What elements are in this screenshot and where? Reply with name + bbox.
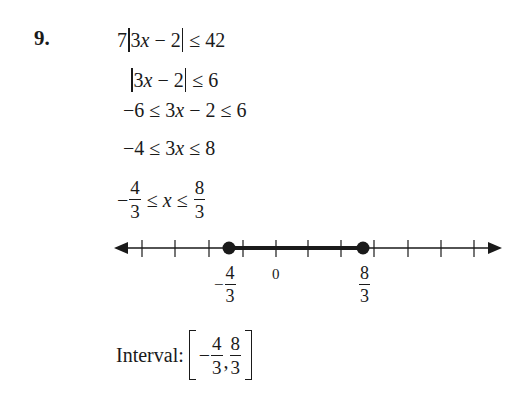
closed-endpoint-right bbox=[357, 242, 370, 255]
label-neg-four-thirds: −43 bbox=[214, 264, 237, 305]
left-bracket bbox=[189, 330, 196, 380]
numerator: 4 bbox=[211, 334, 223, 356]
left-arrow-icon bbox=[114, 242, 128, 254]
numerator: 8 bbox=[230, 334, 242, 356]
fraction: 83 bbox=[359, 264, 370, 305]
closed-endpoint-left bbox=[223, 242, 236, 255]
denominator: 3 bbox=[225, 285, 236, 305]
fraction-eight-thirds: 83 bbox=[230, 334, 242, 377]
label-zero: 0 bbox=[272, 266, 280, 283]
right-arrow-icon bbox=[488, 242, 502, 254]
minus-sign: − bbox=[214, 275, 224, 294]
minus-sign: − bbox=[199, 344, 210, 366]
denominator: 3 bbox=[359, 285, 370, 305]
numerator: 8 bbox=[359, 264, 370, 285]
fraction-neg-four-thirds: 43 bbox=[211, 334, 223, 377]
label-eight-thirds: 83 bbox=[358, 264, 371, 305]
comma: , bbox=[224, 350, 229, 372]
denominator: 3 bbox=[230, 356, 242, 377]
fraction: 43 bbox=[225, 264, 236, 305]
number-line bbox=[0, 0, 526, 394]
interval-notation: Interval: −43,83 bbox=[116, 330, 252, 380]
numerator: 4 bbox=[225, 264, 236, 285]
interval-label: Interval: bbox=[116, 344, 184, 366]
denominator: 3 bbox=[211, 356, 223, 377]
right-bracket bbox=[245, 330, 252, 380]
